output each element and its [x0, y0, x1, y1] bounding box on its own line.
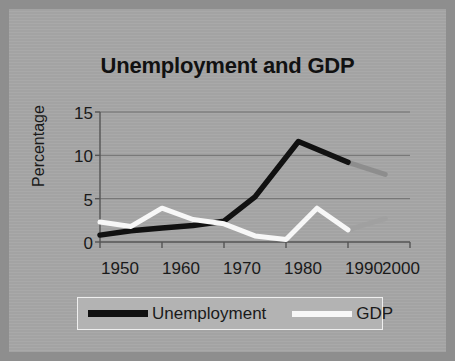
- black-line-swatch-icon: [88, 310, 148, 317]
- chart-legend: Unemployment GDP: [77, 297, 383, 330]
- series-line-gdp: [100, 208, 348, 239]
- legend-item-gdp[interactable]: GDP: [282, 304, 393, 324]
- axis-lines: [100, 112, 410, 242]
- series-line-unemployment-projected: [348, 162, 385, 174]
- white-line-swatch-icon: [292, 311, 352, 317]
- data-series-layer: [100, 142, 385, 240]
- gridlines: [100, 112, 410, 199]
- legend-label-unemployment: Unemployment: [152, 304, 266, 324]
- chart-figure: Unemployment and GDP Percentage 15 10 5 …: [0, 0, 455, 361]
- series-line-gdp-projected: [348, 219, 385, 230]
- legend-item-unemployment[interactable]: Unemployment: [78, 304, 266, 324]
- legend-label-gdp: GDP: [356, 304, 393, 324]
